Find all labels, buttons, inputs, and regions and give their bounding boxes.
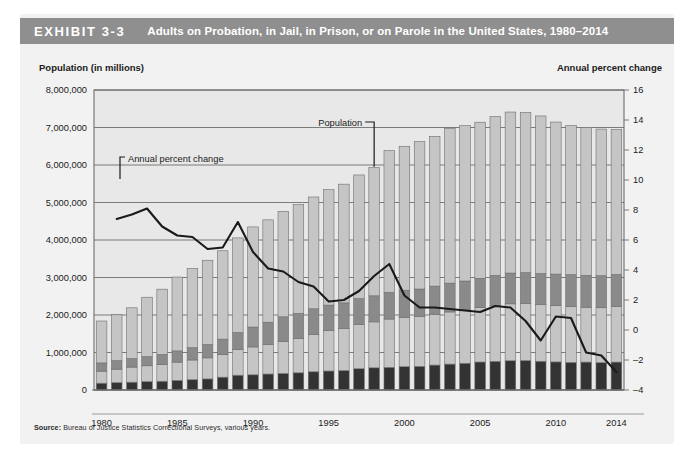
bar-segment: [172, 351, 183, 362]
bar-segment: [490, 117, 501, 276]
y2-axis-tick-label: –2: [633, 355, 643, 365]
bar-segment: [263, 344, 274, 374]
bar-segment: [596, 129, 607, 276]
x-axis-tick-label: 2014: [606, 418, 627, 428]
bar-segment: [414, 316, 425, 366]
bar-segment: [308, 197, 319, 309]
y-axis-tick-label: 2,000,000: [46, 310, 87, 320]
y2-axis-tick-label: –4: [633, 385, 643, 395]
y-axis-tick-label: 1,000,000: [46, 348, 87, 358]
bar-segment: [248, 347, 259, 375]
source-label: Source:: [34, 423, 61, 432]
source-note: Source: Bureau of Justice Statistics Cor…: [34, 423, 270, 432]
bar-segment: [339, 371, 350, 390]
bar-segment: [581, 362, 592, 390]
y2-axis-tick-label: 12: [633, 145, 643, 155]
bar-segment: [248, 327, 259, 347]
bar-segment: [551, 274, 562, 306]
bar-segment: [233, 238, 244, 333]
bar-segment: [233, 332, 244, 349]
bar-segment: [535, 361, 546, 390]
bar-segment: [581, 275, 592, 307]
bar-segment: [293, 313, 304, 338]
bar-segment: [127, 359, 138, 367]
bar-segment: [187, 348, 198, 360]
y2-axis-tick-label: 10: [633, 175, 643, 185]
bar-segment: [429, 314, 440, 365]
y-axis-tick-label: 5,000,000: [46, 198, 87, 208]
bar-segment: [96, 383, 107, 390]
bar-segment: [354, 325, 365, 369]
bar-segment: [263, 374, 274, 390]
bar-segment: [187, 268, 198, 347]
bar-segment: [566, 126, 577, 275]
bar-segment: [581, 128, 592, 276]
bar-segment: [127, 382, 138, 390]
bar-segment: [278, 317, 289, 342]
population-annotation: Population: [318, 118, 362, 128]
bar-segment: [369, 368, 380, 390]
x-axis-tick-label: 2010: [546, 418, 567, 428]
bar-segment: [460, 363, 471, 390]
bar-segment: [217, 354, 228, 377]
bar-segment: [445, 312, 456, 364]
bar-segment: [445, 364, 456, 390]
bar-segment: [490, 275, 501, 305]
bar-segment: [278, 211, 289, 316]
bar-segment: [505, 273, 516, 304]
y-axis-tick-label: 4,000,000: [46, 235, 87, 245]
bar-segment: [111, 361, 122, 369]
bar-segment: [414, 289, 425, 316]
bar-segment: [142, 357, 153, 366]
bar-segment: [111, 383, 122, 390]
y-axis-tick-label: 8,000,000: [46, 85, 87, 95]
y2-axis-tick-label: 2: [633, 295, 638, 305]
bar-segment: [96, 363, 107, 371]
bar-segment: [475, 308, 486, 362]
bar-segment: [429, 286, 440, 314]
bar-segment: [248, 227, 259, 327]
bar-segment: [202, 345, 213, 358]
bar-segment: [157, 289, 168, 354]
bar-segment: [248, 375, 259, 390]
bar-segment: [263, 220, 274, 322]
bar-segment: [354, 299, 365, 325]
bar-segment: [202, 379, 213, 390]
bar-segment: [202, 260, 213, 344]
bar-segment: [354, 175, 365, 299]
bar-segment: [475, 278, 486, 307]
bar-segment: [520, 273, 531, 304]
bar-segment: [96, 371, 107, 383]
bar-segment: [308, 372, 319, 390]
bar-segment: [384, 292, 395, 319]
bar-segment: [278, 341, 289, 373]
bar-segment: [339, 328, 350, 370]
bar-segment: [157, 364, 168, 381]
y-axis-tick-label: 7,000,000: [46, 123, 87, 133]
chart-area: 8,000,0007,000,0006,000,0005,000,0004,00…: [20, 14, 674, 444]
bar-segment: [611, 362, 622, 390]
bar-segment: [535, 274, 546, 305]
bar-segment: [172, 277, 183, 351]
bar-segment: [414, 142, 425, 289]
x-axis-tick-label: 2000: [394, 418, 415, 428]
y-axis-tick-label: 6,000,000: [46, 160, 87, 170]
bar-segment: [551, 362, 562, 390]
bar-segment: [369, 296, 380, 322]
bar-segment: [233, 350, 244, 376]
y2-axis-tick-label: 14: [633, 115, 643, 125]
x-axis-tick-label: 2005: [470, 418, 491, 428]
bar-segment: [157, 354, 168, 364]
bar-segment: [611, 307, 622, 362]
bar-segment: [111, 369, 122, 383]
bar-segment: [520, 304, 531, 361]
bar-segment: [142, 366, 153, 382]
bar-segment: [551, 122, 562, 274]
bar-segment: [354, 369, 365, 390]
bar-segment: [293, 373, 304, 390]
bar-segment: [142, 382, 153, 390]
bar-segment: [217, 339, 228, 354]
exhibit-panel: EXHIBIT 3-3 Adults on Probation, in Jail…: [20, 14, 674, 444]
bar-segment: [278, 373, 289, 390]
bar-segment: [323, 190, 334, 305]
